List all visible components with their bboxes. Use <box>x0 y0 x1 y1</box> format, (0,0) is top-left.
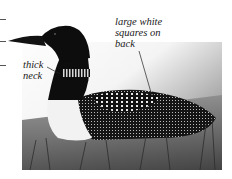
annotation-line: thick <box>23 59 43 70</box>
tick-mark <box>0 41 6 42</box>
annotation-line: back <box>115 38 162 49</box>
annotation-line: squares on <box>115 27 162 38</box>
annotation-line: neck <box>23 70 43 81</box>
tick-mark <box>0 19 6 20</box>
annotation-thick-neck: thick neck <box>23 59 43 81</box>
annotation-line: large white <box>115 16 162 27</box>
annotation-large-white-squares: large white squares on back <box>115 16 162 49</box>
tick-mark <box>0 65 6 66</box>
